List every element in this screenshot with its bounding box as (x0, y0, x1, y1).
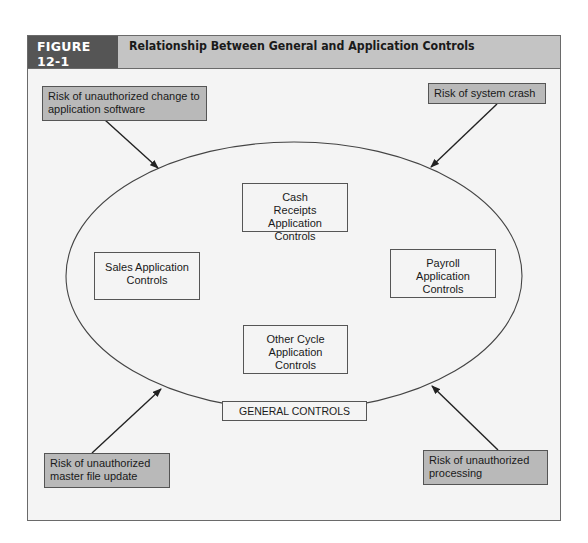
risk-box-system-crash: Risk of system crash (428, 83, 546, 104)
app-control-text: Sales Application Controls (105, 261, 189, 286)
risk-text: Risk of unauthorized change to applicati… (48, 90, 200, 115)
risk-box-unauthorized-change: Risk of unauthorized change to applicati… (42, 86, 207, 121)
risk-text: Risk of unauthorized master file update (50, 457, 150, 482)
app-control-text: Payroll Application Controls (416, 257, 470, 295)
other-cycle-controls-box: Other Cycle Application Controls (243, 325, 348, 374)
cash-receipts-controls-box: Cash Receipts Application Controls (242, 183, 348, 232)
general-controls-box: GENERAL CONTROLS (222, 401, 367, 421)
payroll-controls-box: Payroll Application Controls (390, 249, 496, 298)
risk-text: Risk of system crash (434, 87, 535, 99)
risk-box-master-file-update: Risk of unauthorized master file update (44, 453, 170, 488)
sales-controls-box: Sales Application Controls (94, 252, 200, 300)
arrow-unauthorized-processing (432, 386, 498, 450)
app-control-text: Other Cycle Application Controls (266, 333, 324, 371)
risk-text: Risk of unauthorized processing (429, 454, 529, 479)
app-control-text: Cash Receipts Application Controls (268, 191, 322, 242)
arrow-master-file-update (92, 389, 161, 453)
arrow-unauthorized-change (105, 120, 158, 168)
risk-box-unauthorized-processing: Risk of unauthorized processing (423, 450, 548, 485)
arrow-system-crash (431, 104, 497, 167)
general-controls-label: GENERAL CONTROLS (239, 405, 350, 417)
